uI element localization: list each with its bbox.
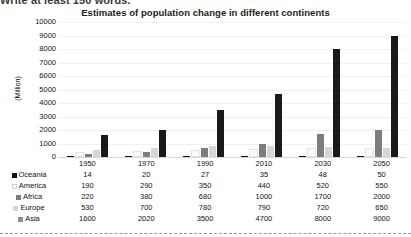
table-cell-europe-1990: 780 [176, 202, 235, 213]
bar-america-1950 [75, 152, 84, 157]
bar-asia-1970 [159, 130, 166, 157]
table-cell-oceania-2050: 50 [352, 169, 411, 180]
table-row: Asia160020203500470080009000 [0, 213, 411, 224]
table-corner-cell [0, 158, 58, 169]
legend-label: Europe [20, 203, 44, 212]
bar-oceania-1990 [183, 156, 190, 157]
bar-oceania-2010 [241, 156, 248, 157]
bar-america-2030 [307, 148, 316, 157]
y-axis-tick: 5000 [16, 86, 56, 94]
table-cell-asia-2050: 9000 [352, 213, 411, 224]
bar-europe-2030 [325, 147, 332, 157]
bar-oceania-1950 [67, 156, 74, 157]
bar-asia-2050 [391, 36, 398, 158]
y-axis-tick: 10000 [16, 18, 56, 26]
bar-europe-1970 [151, 148, 158, 157]
table-cell-asia-1970: 2020 [117, 213, 176, 224]
bar-america-2050 [365, 148, 374, 157]
y-axis-tick: 9000 [16, 32, 56, 40]
bar-europe-1950 [93, 150, 100, 157]
bar-groups [58, 22, 406, 157]
table-cell-oceania-2030: 48 [293, 169, 352, 180]
cutoff-instruction-text: Write at least 150 words. [0, 0, 411, 6]
bar-africa-2010 [259, 144, 266, 158]
table-cell-america-2030: 520 [293, 180, 352, 191]
bar-oceania-1970 [125, 156, 132, 157]
table-row: Oceania142027354850 [0, 169, 411, 180]
bar-america-1970 [133, 151, 142, 157]
table-cell-oceania-1970: 20 [117, 169, 176, 180]
table-row: Europe530700780790720650 [0, 202, 411, 213]
legend-item-oceania: Oceania [0, 169, 58, 180]
table-cell-europe-2010: 790 [234, 202, 293, 213]
table-cell-africa-1950: 220 [58, 191, 117, 202]
table-cell-asia-2010: 4700 [234, 213, 293, 224]
bar-asia-2010 [275, 94, 282, 157]
data-table: 195019701990201020302050Oceania142027354… [0, 158, 411, 224]
legend-swatch-icon [12, 173, 17, 178]
bar-group-1990 [174, 22, 232, 157]
legend-item-asia: Asia [0, 213, 58, 224]
plot-area [58, 22, 406, 157]
data-table-body: 195019701990201020302050Oceania142027354… [0, 158, 411, 224]
legend-label: Africa [23, 192, 42, 201]
table-cell-america-2050: 550 [352, 180, 411, 191]
table-year-header-2030: 2030 [293, 158, 352, 169]
bar-africa-2030 [317, 134, 324, 157]
bar-africa-1950 [85, 154, 92, 157]
legend-item-africa: Africa [0, 191, 58, 202]
population-change-bar-chart: Estimates of population change in differ… [0, 7, 411, 159]
bar-africa-1990 [201, 148, 208, 157]
legend-swatch-icon [12, 184, 17, 189]
bar-asia-1950 [101, 135, 108, 157]
table-cell-oceania-2010: 35 [234, 169, 293, 180]
legend-label: Asia [25, 214, 40, 223]
legend-swatch-icon [13, 206, 18, 211]
table-cell-america-1970: 290 [117, 180, 176, 191]
bar-europe-1990 [209, 146, 216, 157]
table-cell-africa-1970: 380 [117, 191, 176, 202]
bar-africa-2050 [375, 130, 382, 157]
y-axis-tick: 1000 [16, 140, 56, 148]
table-cell-europe-2030: 720 [293, 202, 352, 213]
table-cell-asia-1950: 1600 [58, 213, 117, 224]
bar-europe-2050 [383, 148, 390, 157]
table-year-header-1990: 1990 [176, 158, 235, 169]
chart-title: Estimates of population change in differ… [0, 7, 411, 18]
table-cell-africa-2050: 2000 [352, 191, 411, 202]
y-axis-tick-labels: 1000090008000700060005000400030002000100… [16, 22, 56, 157]
table-cell-america-1990: 350 [176, 180, 235, 191]
table-header-row: 195019701990201020302050 [0, 158, 411, 169]
y-axis-tick: 3000 [16, 113, 56, 121]
bar-group-2050 [348, 22, 406, 157]
bar-group-2010 [232, 22, 290, 157]
bar-asia-1990 [217, 110, 224, 157]
legend-item-europe: Europe [0, 202, 58, 213]
table-cell-oceania-1990: 27 [176, 169, 235, 180]
legend-label: Oceania [19, 170, 47, 179]
bar-group-1970 [116, 22, 174, 157]
table-cell-africa-2010: 1000 [234, 191, 293, 202]
y-axis-tick: 2000 [16, 126, 56, 134]
bar-asia-2030 [333, 49, 340, 157]
table-cell-europe-1970: 700 [117, 202, 176, 213]
table-year-header-2050: 2050 [352, 158, 411, 169]
bottom-divider [0, 233, 411, 234]
table-row: America190290350440520550 [0, 180, 411, 191]
table-cell-america-1950: 190 [58, 180, 117, 191]
bar-europe-2010 [267, 146, 274, 157]
bar-group-1950 [58, 22, 116, 157]
y-axis-tick: 6000 [16, 72, 56, 80]
legend-swatch-icon [16, 195, 21, 200]
bar-oceania-2030 [299, 156, 306, 157]
legend-label: America [19, 181, 47, 190]
legend-swatch-icon [18, 217, 23, 222]
table-cell-oceania-1950: 14 [58, 169, 117, 180]
table-cell-asia-1990: 3500 [176, 213, 235, 224]
legend-item-america: America [0, 180, 58, 191]
table-cell-america-2010: 440 [234, 180, 293, 191]
y-axis-tick: 4000 [16, 99, 56, 107]
y-axis-tick: 7000 [16, 59, 56, 67]
table-year-header-1970: 1970 [117, 158, 176, 169]
bar-america-2010 [249, 149, 258, 157]
